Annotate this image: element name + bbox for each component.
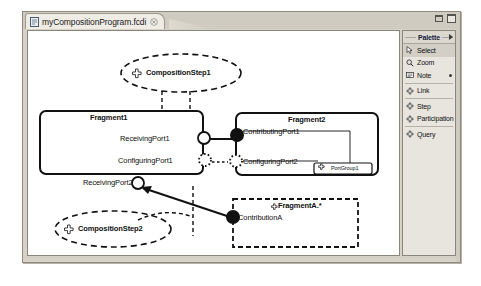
diamond-icon	[406, 130, 414, 138]
palette-title: Palette	[418, 34, 440, 41]
palette-item-zoom[interactable]: Zoom	[403, 57, 455, 70]
fragmenta-port-contributiona-label: ContributionA	[238, 213, 282, 222]
palette-item-select[interactable]: Select	[403, 44, 455, 57]
palette-item-step[interactable]: Step	[403, 100, 455, 113]
link-contributiona-to-receivingport2	[143, 188, 230, 217]
port-receivingport2[interactable]	[132, 177, 144, 189]
palette-item-participation[interactable]: Participation	[403, 113, 455, 126]
screenshot-root: myCompositionProgram.fcdi	[0, 0, 481, 286]
diamond-icon	[406, 87, 414, 95]
palette-separator-3	[405, 126, 453, 127]
palette-item-zoom-label: Zoom	[417, 59, 434, 66]
cursor-icon	[406, 46, 414, 54]
diamond-icon	[406, 102, 414, 110]
palette-item-step-label: Step	[417, 103, 431, 110]
fragment1-port-receivingport2-label: ReceivingPort2	[83, 178, 132, 187]
palette-separator-2	[405, 98, 453, 99]
tab-mycompositionprogram[interactable]: myCompositionProgram.fcdi	[25, 13, 165, 29]
editor-window: myCompositionProgram.fcdi	[22, 11, 461, 263]
diagram-canvas[interactable]: CompositionStep1 CompositionStep2 Fragme…	[27, 30, 400, 256]
palette-item-note-more-icon[interactable]	[449, 74, 452, 77]
tab-label: myCompositionProgram.fcdi	[42, 17, 146, 27]
close-icon[interactable]	[150, 18, 158, 26]
window-buttons	[435, 14, 456, 23]
port-contributingport1[interactable]	[230, 128, 244, 142]
palette-item-participation-label: Participation	[417, 115, 454, 122]
composition-step-2-label: CompositionStep2	[78, 224, 143, 233]
tab-tail-decoration	[169, 19, 215, 29]
fragment2-title: Fragment2	[288, 115, 325, 124]
fragmenta-title: FragmentA.*	[278, 201, 322, 210]
palette-item-query-label: Query	[417, 131, 435, 138]
fragment1-title: Fragment1	[90, 113, 127, 122]
palette-item-note[interactable]: Note	[403, 69, 455, 82]
window-right-padding	[456, 12, 460, 262]
palette-item-link-label: Link	[417, 87, 429, 94]
file-icon	[30, 17, 39, 27]
palette-header: Palette	[403, 31, 455, 44]
magnifier-icon	[406, 59, 414, 67]
port-receivingport1[interactable]	[198, 132, 210, 144]
palette-separator-1	[405, 83, 453, 84]
palette-item-note-label: Note	[417, 72, 431, 79]
tab-strip: myCompositionProgram.fcdi	[23, 12, 460, 29]
port-configuringport1[interactable]	[199, 154, 211, 166]
minimize-icon[interactable]	[435, 15, 443, 22]
maximize-icon[interactable]	[447, 14, 456, 23]
portgroup1-label: PortGroup1	[331, 165, 358, 171]
fragment2-port-contributingport1-label: ContributingPort1	[243, 127, 300, 136]
port-configuringport2[interactable]	[230, 155, 242, 167]
palette-item-select-label: Select	[417, 47, 436, 54]
fragment1-port-receivingport1-label: ReceivingPort1	[120, 134, 169, 143]
fragment1-port-configuringport1-label: ConfiguringPort1	[118, 156, 173, 165]
palette-panel: Palette Select Zoom	[402, 30, 456, 256]
fragment2-port-configuringport2-label: ConfiguringPort2	[243, 157, 298, 166]
note-icon	[406, 71, 414, 79]
palette-item-query[interactable]: Query	[403, 128, 455, 141]
diagram-graphics	[28, 31, 399, 255]
diamond-icon	[406, 115, 414, 123]
composition-step-1-label: CompositionStep1	[146, 68, 211, 77]
palette-rule-left	[405, 37, 416, 38]
chevron-right-icon[interactable]	[449, 34, 453, 40]
palette-item-link[interactable]: Link	[403, 85, 455, 98]
